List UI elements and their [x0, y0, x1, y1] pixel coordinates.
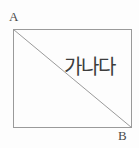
vertex-label-b: B	[118, 129, 127, 142]
vertex-label-a: A	[9, 10, 18, 23]
diagram-canvas: A B 가나다	[0, 0, 139, 148]
korean-annotation-text: 가나다	[64, 55, 115, 79]
